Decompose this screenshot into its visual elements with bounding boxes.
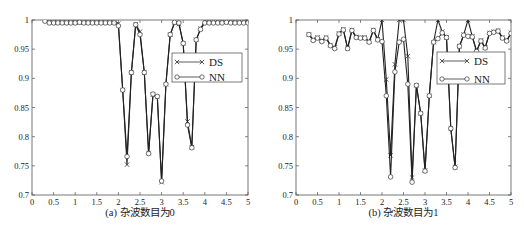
nn-marker [311,38,316,43]
x-tick-label: 2 [380,197,384,207]
nn-marker [509,31,514,36]
nn-marker [483,46,488,51]
nn-marker [120,88,125,93]
nn-marker [56,21,61,26]
nn-marker [307,32,312,37]
nn-marker [60,21,65,26]
nn-marker [103,21,108,26]
nn-marker [345,46,350,51]
nn-marker [444,35,449,40]
nn-marker [146,151,151,156]
chart-caption: (b) 杂波数目为1 [368,206,438,219]
figure: 00.511.522.533.544.550.70.750.80.850.90.… [0,0,524,234]
x-tick-label: 4.5 [484,197,495,207]
x-tick-label: 2 [116,197,120,207]
nn-marker [350,28,355,33]
nn-marker [125,154,130,159]
nn-marker [203,21,208,26]
x-tick-label: 1.5 [91,197,102,207]
y-tick-label: 1 [25,15,29,25]
x-tick-label: 4 [203,197,208,207]
nn-marker [168,32,173,37]
nn-marker [99,21,104,26]
y-tick-label: 0.8 [18,132,29,142]
nn-marker [198,27,203,32]
nn-marker [358,36,363,41]
nn-marker [496,29,501,34]
x-tick-label: 4 [466,197,471,207]
nn-marker [320,39,325,44]
nn-marker [159,179,164,184]
nn-marker [479,39,484,44]
y-tick-label: 0.8 [282,132,293,142]
nn-marker [77,20,82,25]
nn-marker [414,83,419,88]
legend-box [172,53,242,82]
nn-marker [142,70,147,75]
nn-marker [73,21,78,26]
nn-marker [246,21,251,26]
legend-nn-icon [465,77,469,81]
nn-marker [90,21,95,26]
nn-marker [431,40,436,45]
legend: DSNN [172,53,242,83]
nn-marker [436,36,441,41]
nn-marker [47,21,52,26]
nn-marker [332,46,337,51]
nn-marker [155,94,160,99]
x-tick-label: 4.5 [221,197,232,207]
nn-marker [500,36,505,41]
x-tick-label: 0 [30,197,34,207]
nn-marker [194,38,199,43]
y-tick-label: 0.7 [282,190,293,200]
x-tick-label: 3.5 [441,197,452,207]
chart-panel-b: 00.511.522.533.544.550.70.750.80.850.90.… [278,15,513,219]
x-tick-label: 3.5 [178,197,189,207]
nn-marker [95,21,100,26]
legend-label-nn: NN [209,71,225,83]
nn-marker [388,175,393,180]
nn-marker [112,21,117,26]
nn-marker [401,37,406,42]
nn-marker [228,21,233,26]
legend-label-nn: NN [474,73,490,85]
y-tick-label: 0.95 [278,44,293,54]
x-tick-label: 0.5 [312,197,323,207]
nn-marker [384,94,389,99]
x-tick-label: 1.5 [355,197,366,207]
nn-marker [397,40,402,45]
y-tick-label: 0.95 [14,44,29,54]
nn-marker [375,38,380,43]
nn-marker [82,21,87,26]
nn-marker [410,180,415,185]
y-tick-label: 0.85 [14,103,29,113]
y-tick-label: 0.7 [18,190,29,200]
y-tick-label: 0.75 [278,161,293,171]
nn-marker [151,92,156,97]
nn-marker [418,111,423,116]
x-tick-label: 1 [337,197,341,207]
y-tick-label: 0.75 [14,161,29,171]
nn-marker [164,82,169,87]
y-tick-label: 0.9 [18,73,29,83]
nn-marker [341,28,346,33]
nn-marker [393,70,398,75]
nn-marker [241,21,246,26]
nn-marker [504,39,509,44]
y-tick-label: 0.9 [282,73,293,83]
nn-marker [380,39,385,44]
x-tick-label: 5 [509,197,513,207]
nn-marker [466,34,471,39]
nn-marker [177,21,182,26]
y-tick-label: 1 [289,15,293,25]
nn-marker [233,21,238,26]
nn-marker [423,169,428,174]
legend: DSNN [437,52,505,85]
legend-label-ds: DS [209,56,223,68]
nn-marker [107,21,112,26]
nn-marker [237,21,242,26]
nn-marker [51,21,56,26]
nn-marker [457,44,462,49]
nn-marker [116,24,121,29]
nn-marker [211,21,216,26]
